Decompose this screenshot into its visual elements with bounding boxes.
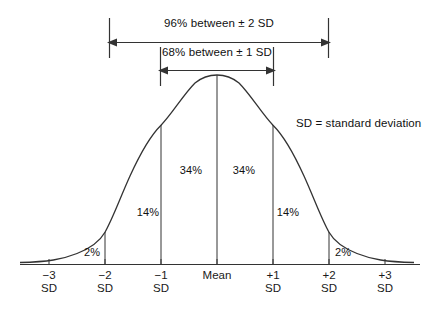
axis-label-mean: Mean (203, 269, 232, 282)
area-label-left-tail: 2% (84, 246, 100, 258)
axis-label-plus-3sd-value: +3 (377, 269, 393, 282)
normal-distribution-figure: 96% between ± 2 SD 68% between ± 1 SD SD… (0, 0, 438, 311)
axis-label-plus-3sd-unit: SD (377, 282, 393, 295)
axis-label-minus-1sd-unit: SD (153, 282, 169, 295)
two-sd-range-label: 96% between ± 2 SD (164, 17, 274, 29)
axis-label-plus-1sd-unit: SD (265, 282, 281, 295)
axis-label-plus-1sd-value: +1 (265, 269, 281, 282)
axis-label-minus-2sd: −2 SD (97, 269, 113, 295)
area-label-right-inner: 34% (233, 164, 255, 176)
axis-label-plus-2sd-value: +2 (321, 269, 337, 282)
axis-label-plus-2sd: +2 SD (321, 269, 337, 295)
axis-label-minus-2sd-value: −2 (97, 269, 113, 282)
area-label-right-outer: 14% (277, 206, 299, 218)
axis-label-plus-1sd: +1 SD (265, 269, 281, 295)
axis-label-mean-value: Mean (203, 269, 232, 282)
sd-definition-legend: SD = standard deviation (296, 117, 421, 129)
axis-label-minus-1sd-value: −1 (153, 269, 169, 282)
axis-label-minus-1sd: −1 SD (153, 269, 169, 295)
area-label-left-inner: 34% (180, 164, 202, 176)
axis-label-plus-3sd: +3 SD (377, 269, 393, 295)
one-sd-range-label: 68% between ± 1 SD (162, 46, 272, 58)
axis-label-minus-3sd-value: −3 (41, 269, 57, 282)
area-label-right-tail: 2% (335, 246, 351, 258)
axis-label-plus-2sd-unit: SD (321, 282, 337, 295)
area-label-left-outer: 14% (137, 206, 159, 218)
axis-label-minus-2sd-unit: SD (97, 282, 113, 295)
axis-label-minus-3sd-unit: SD (41, 282, 57, 295)
axis-label-minus-3sd: −3 SD (41, 269, 57, 295)
